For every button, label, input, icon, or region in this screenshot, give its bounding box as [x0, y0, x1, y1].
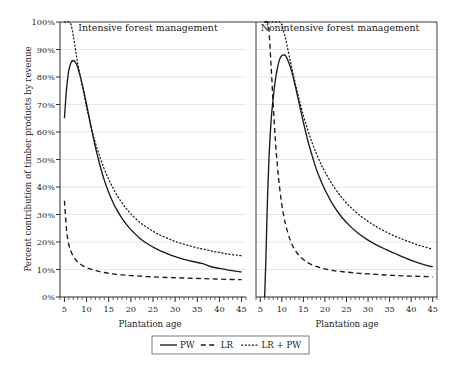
x-tick-label: 20 [126, 304, 136, 314]
x-axis-title-right: Plantation age [315, 319, 378, 329]
x-tick-label: 35 [192, 304, 202, 314]
x-tick-label: 25 [341, 304, 351, 314]
y-tick-label: 100% [32, 17, 56, 27]
panel-title-left: Intensive forest management [78, 22, 218, 33]
x-tick-label: 5 [258, 304, 263, 314]
y-tick-label: 90% [37, 45, 55, 55]
x-tick-label: 25 [148, 304, 158, 314]
x-tick-label: 10 [277, 304, 287, 314]
x-tick-label: 30 [363, 304, 373, 314]
y-tick-label: 80% [37, 72, 55, 82]
y-tick-label: 40% [37, 182, 55, 192]
x-tick-label: 45 [236, 304, 246, 314]
y-axis-title: Percent contribution of timber products … [23, 46, 33, 271]
legend-label: LR [221, 340, 234, 350]
forest-management-chart: Percent contribution of timber products … [0, 0, 460, 366]
x-tick-label: 30 [170, 304, 180, 314]
x-tick-label: 5 [62, 304, 67, 314]
x-tick-label: 40 [406, 304, 416, 314]
x-tick-label: 35 [384, 304, 394, 314]
x-tick-label: 15 [298, 304, 308, 314]
x-tick-label: 20 [320, 304, 330, 314]
y-tick-label: 20% [37, 237, 55, 247]
x-axis-title-left: Plantation age [118, 319, 181, 329]
x-tick-label: 40 [214, 304, 224, 314]
legend-label: LR + PW [262, 340, 302, 350]
y-tick-label: 30% [37, 210, 55, 220]
x-tick-label: 15 [104, 304, 114, 314]
x-tick-label: 10 [81, 304, 91, 314]
y-tick-label: 0% [42, 292, 55, 302]
y-tick-label: 70% [37, 100, 55, 110]
y-tick-label: 10% [37, 265, 55, 275]
y-tick-label: 50% [37, 155, 55, 165]
y-axis-title-group: Percent contribution of timber products … [23, 46, 33, 271]
legend-label: PW [180, 340, 195, 350]
panel-title-right: Nonintensive forest management [261, 22, 420, 33]
y-tick-label: 60% [37, 127, 55, 137]
figure-container: Percent contribution of timber products … [0, 0, 460, 366]
legend[interactable]: PWLRLR + PW [152, 336, 309, 354]
x-tick-label: 45 [427, 304, 437, 314]
